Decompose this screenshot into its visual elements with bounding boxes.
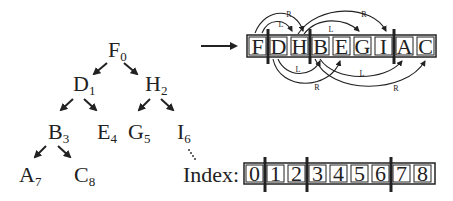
tree-node-g: G5 (128, 119, 150, 146)
array-row: F D H B E G I A C L R L R (247, 10, 436, 93)
array-cell: C (418, 34, 433, 59)
tree-node-b: B3 (48, 119, 69, 146)
index-cell: 4 (333, 161, 344, 186)
tree-node-h: H2 (145, 71, 167, 98)
index-cell: 7 (396, 161, 407, 186)
edge-f-d-arrow-icon (94, 63, 107, 74)
edge-h-i-arrow-icon (161, 99, 173, 110)
edge-h-g-arrow-icon (139, 99, 150, 110)
index-cell: 3 (312, 161, 323, 186)
array-cell: H (292, 34, 308, 59)
arc-d-to-e-icon (273, 59, 340, 83)
tree-node-e: E4 (97, 119, 117, 146)
edge-f-h-arrow-icon (124, 63, 137, 74)
tree-to-array-diagram: F0 D1 H2 B3 E4 G5 I6 A7 C8 (0, 0, 453, 201)
continuation-dots-icon (188, 149, 196, 160)
arc-label: R (361, 10, 367, 19)
array-cell: A (397, 34, 413, 59)
index-row: Index: 0 1 2 3 4 5 6 7 8 (183, 157, 435, 192)
arc-label: R (314, 83, 320, 92)
index-cell: 0 (249, 161, 260, 186)
index-cell: 5 (354, 161, 365, 186)
index-cell: 8 (417, 161, 428, 186)
arc-label: L (279, 20, 284, 29)
array-cell: I (380, 34, 387, 59)
edge-d-e-arrow-icon (84, 99, 96, 110)
tree-node-f: F0 (108, 37, 127, 64)
edge-b-a-arrow-icon (35, 146, 46, 157)
array-cell: G (355, 34, 371, 59)
array-cell: D (271, 34, 287, 59)
arc-label: R (393, 84, 399, 93)
edge-b-c-arrow-icon (58, 146, 70, 157)
arc-label: L (329, 25, 334, 34)
index-label: Index: (183, 162, 239, 187)
index-cell: 2 (291, 161, 302, 186)
arc-b-to-c-icon (315, 59, 425, 86)
array-cell: E (335, 34, 348, 59)
array-cell: F (251, 34, 263, 59)
edge-d-b-arrow-icon (61, 99, 73, 110)
array-cell: B (313, 34, 328, 59)
tree-node-c: C8 (74, 162, 95, 189)
tree-node-a: A7 (19, 162, 42, 189)
tree-node-i: I6 (177, 119, 191, 146)
tree-node-d: D1 (73, 71, 95, 98)
arc-label: L (360, 69, 365, 78)
arc-label: L (296, 65, 301, 74)
arc-label: R (286, 10, 292, 19)
tree: F0 D1 H2 B3 E4 G5 I6 A7 C8 (19, 37, 196, 189)
index-cell: 6 (375, 161, 386, 186)
index-cell: 1 (270, 161, 281, 186)
